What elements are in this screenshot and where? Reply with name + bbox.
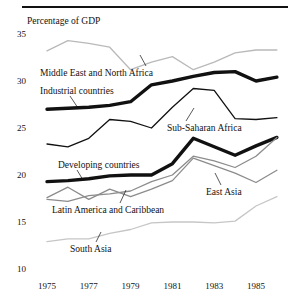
y-axis-tick-label: 15: [8, 217, 26, 227]
series-label: East Asia: [206, 187, 242, 198]
series-label-leader-line: [70, 96, 78, 108]
y-axis-tick-label: 25: [8, 123, 26, 133]
x-axis-tick-label: 1977: [72, 281, 106, 291]
chart-page: Percentage of GDP 3530252015101975197719…: [0, 0, 294, 302]
line-chart-plot: [0, 0, 294, 302]
x-axis-tick-label: 1981: [155, 281, 189, 291]
series-label-leader-line: [186, 108, 194, 121]
y-axis-tick-label: 20: [8, 170, 26, 180]
x-axis-tick-label: 1975: [30, 281, 64, 291]
series-label-leader-line: [140, 55, 146, 66]
x-axis-tick-label: 1979: [114, 281, 148, 291]
series-line: [47, 197, 277, 242]
series-label: South Asia: [70, 244, 111, 255]
series-label: Sub-Saharan Africa: [167, 123, 242, 134]
series-label: Industrial countries: [40, 86, 114, 97]
series-label: Developing countries: [58, 160, 140, 171]
series-label: Middle East and North Africa: [40, 68, 153, 79]
series-label-leader-line: [215, 173, 221, 185]
series-line: [47, 89, 277, 147]
series-line: [47, 41, 277, 70]
y-axis-tick-label: 10: [8, 264, 26, 274]
y-axis-tick-label: 35: [8, 29, 26, 39]
series-label: Latin America and Caribbean: [52, 205, 164, 216]
x-axis-tick-label: 1983: [197, 281, 231, 291]
x-axis-tick-label: 1985: [239, 281, 273, 291]
y-axis-tick-label: 30: [8, 76, 26, 86]
